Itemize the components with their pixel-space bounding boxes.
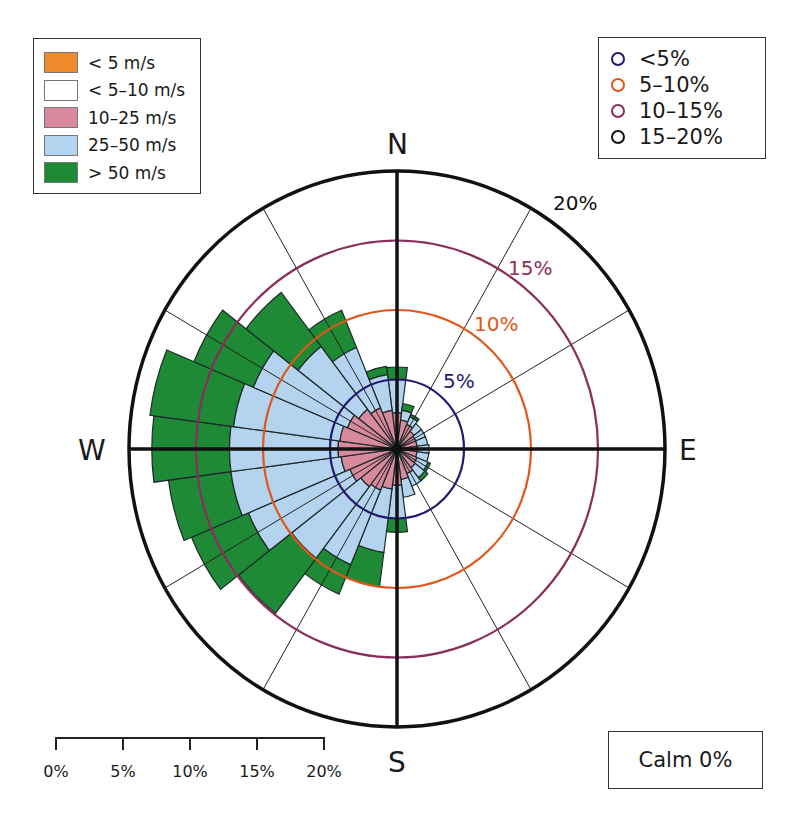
legend-item-5-10: < 5–10 m/s <box>44 77 200 105</box>
compass-south-label: S <box>388 746 406 779</box>
scale-tick-15: 15% <box>239 762 275 781</box>
legend-label: <5% <box>639 47 690 71</box>
ring-icon <box>611 52 625 66</box>
legend-item-15-20pct: 15–20% <box>611 124 765 150</box>
calm-box: Calm 0% <box>608 731 763 789</box>
ring-label-20: 20% <box>553 191 597 215</box>
legend-label: 10–15% <box>639 99 723 123</box>
legend-label: 25–50 m/s <box>88 135 176 155</box>
legend-item-under5: < 5 m/s <box>44 49 200 77</box>
ring-label-10: 10% <box>474 312 518 336</box>
compass-west-label: W <box>78 434 106 467</box>
compass-north-label: N <box>387 128 408 161</box>
legend-item-lt5: <5% <box>611 46 765 72</box>
legend-item-10-25: 10–25 m/s <box>44 104 200 132</box>
scale-tick-10: 10% <box>172 762 208 781</box>
compass-east-label: E <box>679 434 697 467</box>
legend-swatch <box>44 107 78 128</box>
ring-label-15: 15% <box>508 256 552 280</box>
legend-item-10-15pct: 10–15% <box>611 98 765 124</box>
legend-label: > 50 m/s <box>88 163 166 183</box>
ring-icon <box>611 78 625 92</box>
scale-tick-5: 5% <box>110 762 135 781</box>
center-dot <box>392 444 402 454</box>
scale-tick-20: 20% <box>306 762 342 781</box>
legend-swatch <box>44 162 78 183</box>
legend-item-5-10pct: 5–10% <box>611 72 765 98</box>
legend-label: 5–10% <box>639 73 710 97</box>
legend-label: 10–25 m/s <box>88 108 176 128</box>
ring-icon <box>611 104 625 118</box>
legend-swatch <box>44 52 78 73</box>
frequency-legend: <5% 5–10% 10–15% 15–20% <box>598 37 766 159</box>
legend-swatch <box>44 135 78 156</box>
legend-label: < 5 m/s <box>88 53 155 73</box>
wind-rose-grid <box>129 171 665 727</box>
calm-label: Calm 0% <box>639 748 733 772</box>
legend-item-over50: > 50 m/s <box>44 159 200 187</box>
ring-label-5: 5% <box>443 369 475 393</box>
scale-bar <box>56 737 324 750</box>
legend-label: < 5–10 m/s <box>88 80 185 100</box>
scale-tick-0: 0% <box>43 762 68 781</box>
legend-swatch <box>44 80 78 101</box>
wind-rose-bars <box>150 292 431 613</box>
legend-item-25-50: 25–50 m/s <box>44 132 200 160</box>
legend-label: 15–20% <box>639 125 723 149</box>
speed-legend: < 5 m/s < 5–10 m/s 10–25 m/s 25–50 m/s >… <box>33 38 201 194</box>
ring-icon <box>611 130 625 144</box>
